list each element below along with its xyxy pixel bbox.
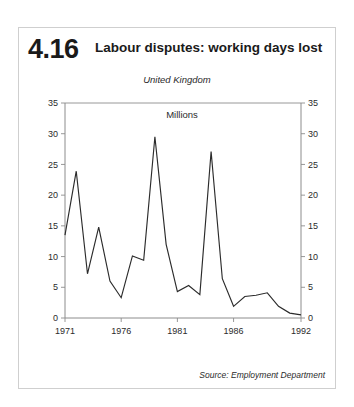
svg-text:15: 15 xyxy=(48,221,58,231)
svg-text:0: 0 xyxy=(53,313,58,323)
svg-text:1971: 1971 xyxy=(55,326,75,336)
page-title: Labour disputes: working days lost xyxy=(95,38,322,58)
region-subtitle: United Kingdom xyxy=(19,74,335,85)
svg-text:0: 0 xyxy=(308,313,313,323)
svg-text:20: 20 xyxy=(308,190,318,200)
svg-text:35: 35 xyxy=(48,98,58,108)
figure-number: 4.16 xyxy=(28,34,79,64)
figure-card: 4.16 Labour disputes: working days lost … xyxy=(18,27,336,389)
svg-text:20: 20 xyxy=(48,190,58,200)
units-label: Millions xyxy=(64,109,300,120)
svg-text:1992: 1992 xyxy=(291,326,311,336)
svg-text:5: 5 xyxy=(53,282,58,292)
svg-text:1981: 1981 xyxy=(167,326,187,336)
svg-text:10: 10 xyxy=(308,252,318,262)
line-chart-svg: 0055101015152020252530303535197119761981… xyxy=(19,91,337,353)
svg-text:30: 30 xyxy=(308,129,318,139)
svg-text:25: 25 xyxy=(48,160,58,170)
svg-text:25: 25 xyxy=(308,160,318,170)
figure-header: 4.16 Labour disputes: working days lost xyxy=(19,34,335,68)
svg-text:15: 15 xyxy=(308,221,318,231)
chart-tick-labels: 0055101015152020252530303535197119761981… xyxy=(48,98,318,336)
data-series-line xyxy=(65,137,301,315)
chart-plot-area: 0055101015152020252530303535197119761981… xyxy=(19,91,337,353)
svg-text:10: 10 xyxy=(48,252,58,262)
svg-text:5: 5 xyxy=(308,282,313,292)
svg-text:1976: 1976 xyxy=(111,326,131,336)
source-note: Source: Employment Department xyxy=(199,370,325,380)
svg-text:30: 30 xyxy=(48,129,58,139)
svg-text:1986: 1986 xyxy=(224,326,244,336)
svg-text:35: 35 xyxy=(308,98,318,108)
